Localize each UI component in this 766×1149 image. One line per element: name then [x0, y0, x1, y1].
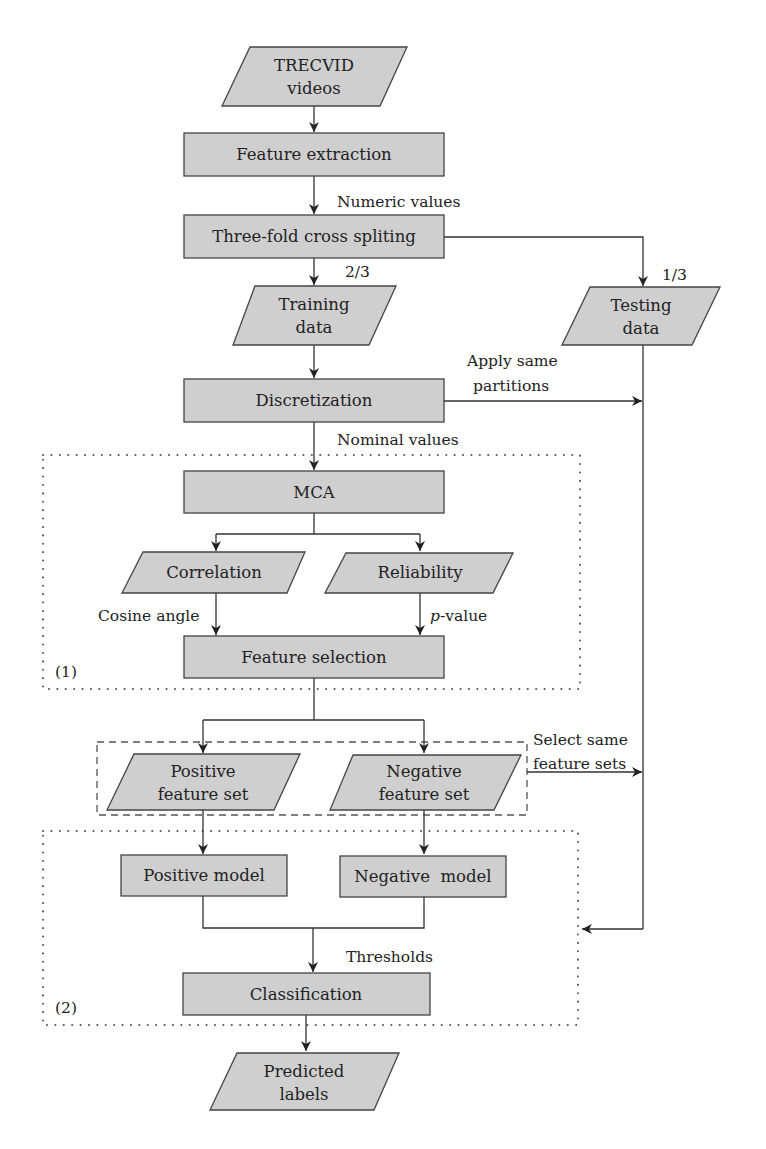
- node-text: Three-fold cross spliting: [212, 227, 416, 246]
- node-text: feature set: [379, 785, 470, 804]
- node-text: Positive: [170, 762, 235, 781]
- label-numeric-values: Numeric values: [337, 193, 461, 211]
- node-text: data: [296, 318, 333, 337]
- node-text: Negative model: [354, 867, 491, 886]
- node-reliability: Reliability: [325, 553, 513, 593]
- node-text: labels: [279, 1085, 328, 1104]
- label-thresholds: Thresholds: [346, 948, 433, 966]
- node-text: Negative: [386, 762, 462, 781]
- node-text: feature set: [158, 785, 249, 804]
- node-discretization: Discretization: [184, 379, 444, 422]
- node-text: Training: [278, 295, 350, 314]
- node-text: Predicted: [264, 1062, 345, 1081]
- label-one-third: 1/3: [662, 266, 687, 284]
- node-text: Feature selection: [241, 648, 387, 667]
- node-text: Feature extraction: [236, 145, 392, 164]
- node-text: Discretization: [256, 391, 373, 410]
- node-training-data: Training data: [233, 286, 396, 345]
- node-text: videos: [286, 79, 340, 98]
- node-text: Testing: [610, 296, 671, 315]
- node-text: Reliability: [378, 563, 464, 582]
- label-partitions: partitions: [473, 377, 549, 395]
- node-text: data: [623, 319, 660, 338]
- node-positive-feature-set: Positive feature set: [107, 754, 300, 810]
- node-correlation: Correlation: [122, 552, 305, 593]
- node-three-fold-split: Three-fold cross spliting: [184, 215, 444, 258]
- node-text: Classification: [250, 985, 363, 1004]
- p-italic: p: [430, 607, 440, 625]
- node-feature-extraction: Feature extraction: [184, 133, 444, 176]
- flowchart-canvas: TRECVID videos Feature extraction Three-…: [0, 0, 766, 1149]
- label-feature-sets: feature sets: [533, 755, 626, 773]
- node-positive-model: Positive model: [121, 855, 287, 896]
- label-select-same: Select same: [533, 731, 628, 749]
- label-cosine-angle: Cosine angle: [98, 607, 199, 625]
- node-testing-data: Testing data: [562, 287, 720, 345]
- p-value-rest: -value: [440, 607, 487, 625]
- node-text: MCA: [293, 483, 336, 502]
- node-text: Positive model: [143, 866, 265, 885]
- label-group-1: (1): [55, 663, 77, 681]
- label-p-value: p-value: [430, 607, 487, 625]
- node-text: TRECVID: [274, 56, 354, 75]
- label-two-thirds: 2/3: [345, 263, 370, 281]
- node-mca: MCA: [184, 471, 444, 513]
- label-group-2: (2): [55, 999, 77, 1017]
- label-nominal-values: Nominal values: [337, 431, 459, 449]
- node-classification: Classification: [183, 973, 430, 1015]
- node-negative-model: Negative model: [340, 856, 506, 897]
- flowchart-svg: TRECVID videos Feature extraction Three-…: [0, 0, 766, 1149]
- node-text: Correlation: [166, 563, 262, 582]
- node-trecvid-videos: TRECVID videos: [222, 47, 407, 106]
- node-negative-feature-set: Negative feature set: [330, 755, 521, 810]
- node-predicted-labels: Predicted labels: [210, 1053, 399, 1110]
- label-apply-same: Apply same: [466, 352, 558, 370]
- node-feature-selection: Feature selection: [184, 636, 444, 678]
